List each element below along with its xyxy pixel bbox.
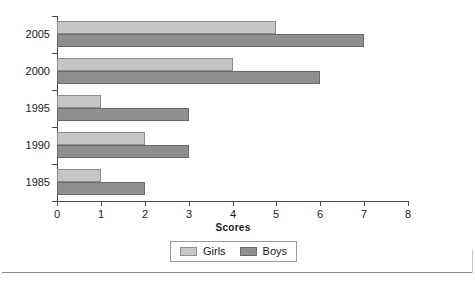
bar-boys-2005 <box>57 34 364 47</box>
bar-girls-1995 <box>57 95 101 108</box>
bar-row <box>57 34 408 47</box>
bar-chart: 19851990199520002005 012345678 Scores Gi… <box>0 0 475 282</box>
x-tick-0 <box>57 201 58 206</box>
x-axis-label-6: 6 <box>310 208 330 220</box>
bar-row <box>57 169 408 182</box>
x-axis-label-5: 5 <box>266 208 286 220</box>
bar-group <box>57 90 408 127</box>
bar-girls-2005 <box>57 21 276 34</box>
y-axis-label-1985: 1985 <box>0 177 50 188</box>
x-axis-title: Scores <box>57 222 409 233</box>
legend-item-girls: Girls <box>180 246 226 257</box>
bar-row <box>57 21 408 34</box>
bar-group <box>57 53 408 90</box>
x-tick-8 <box>408 201 409 206</box>
x-axis-label-4: 4 <box>223 208 243 220</box>
y-axis-label-2000: 2000 <box>0 66 50 77</box>
bar-row <box>57 71 408 84</box>
legend-swatch-boys <box>240 247 257 256</box>
legend-swatch-girls <box>180 247 197 256</box>
bar-row <box>57 58 408 71</box>
x-tick-2 <box>145 201 146 206</box>
chart-legend: Girls Boys <box>170 241 297 262</box>
x-tick-7 <box>364 201 365 206</box>
bar-row <box>57 182 408 195</box>
legend-label-girls: Girls <box>203 246 226 257</box>
bar-girls-2000 <box>57 58 233 71</box>
x-axis-label-0: 0 <box>47 208 67 220</box>
bar-group <box>57 16 408 53</box>
plot-area <box>57 16 408 201</box>
bar-group <box>57 127 408 164</box>
x-tick-4 <box>233 201 234 206</box>
x-axis-label-3: 3 <box>179 208 199 220</box>
bar-boys-2000 <box>57 71 320 84</box>
bar-row <box>57 145 408 158</box>
bar-boys-1990 <box>57 145 189 158</box>
x-tick-1 <box>101 201 102 206</box>
bottom-divider <box>2 272 473 273</box>
x-tick-5 <box>276 201 277 206</box>
x-tick-6 <box>320 201 321 206</box>
bar-group <box>57 164 408 201</box>
x-axis-label-1: 1 <box>91 208 111 220</box>
x-tick-3 <box>189 201 190 206</box>
bar-row <box>57 108 408 121</box>
y-axis-label-1995: 1995 <box>0 103 50 114</box>
bar-girls-1990 <box>57 132 145 145</box>
bar-girls-1985 <box>57 169 101 182</box>
bar-boys-1995 <box>57 108 189 121</box>
bar-row <box>57 95 408 108</box>
right-edge-rule <box>472 250 473 273</box>
legend-item-boys: Boys <box>240 246 287 257</box>
x-axis-label-8: 8 <box>398 208 418 220</box>
bar-boys-1985 <box>57 182 145 195</box>
bar-row <box>57 132 408 145</box>
x-axis-label-2: 2 <box>135 208 155 220</box>
y-axis-label-2005: 2005 <box>0 29 50 40</box>
legend-label-boys: Boys <box>263 246 287 257</box>
y-axis-label-1990: 1990 <box>0 140 50 151</box>
x-axis-label-7: 7 <box>354 208 374 220</box>
